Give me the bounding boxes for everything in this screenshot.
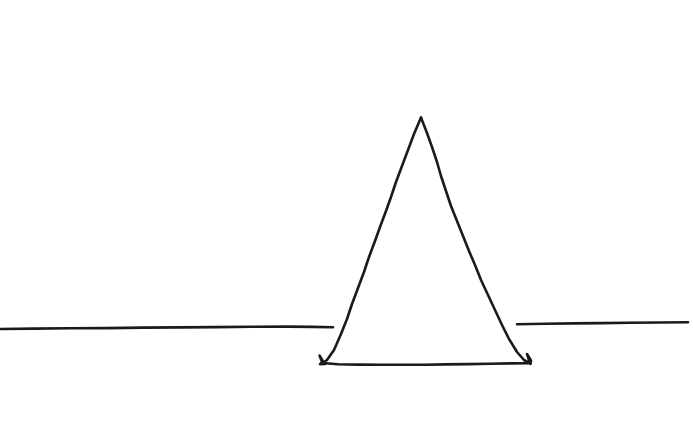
canvas-background [0, 0, 693, 442]
drawing-canvas [0, 0, 693, 442]
line-art-illustration [0, 0, 693, 442]
